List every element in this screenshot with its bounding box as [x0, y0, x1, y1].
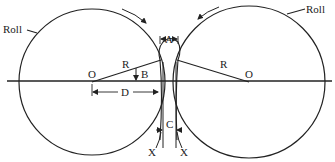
roll-right-label: Roll [306, 3, 325, 15]
label-d: D [121, 86, 129, 98]
roll-left-label: Roll [3, 23, 22, 35]
workpiece-left-edge [160, 60, 162, 140]
label-r-left: R [122, 58, 130, 70]
roll-right-leader [287, 9, 305, 14]
label-o-right: O [245, 68, 253, 80]
label-b: B [141, 68, 148, 80]
label-r-right: R [220, 58, 228, 70]
right-radius-line [177, 60, 249, 82]
label-a: A [165, 33, 173, 45]
rolling-mill-diagram: Roll Roll A D C X X O O R R B [0, 0, 335, 162]
roll-left-leader [27, 30, 37, 33]
label-x-left: X [148, 146, 156, 158]
label-x-right: X [180, 146, 188, 158]
left-rotation-arrow-icon [122, 9, 146, 23]
label-o-left: O [88, 68, 96, 80]
label-c: C [166, 118, 173, 130]
